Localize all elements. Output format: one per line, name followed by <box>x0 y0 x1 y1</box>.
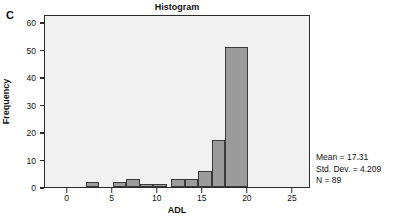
y-tick-label: 40 <box>27 73 36 83</box>
plot-area <box>44 15 310 188</box>
histogram-bar <box>198 171 212 187</box>
y-tick-label: 50 <box>27 46 36 56</box>
x-axis-label: ADL <box>44 205 310 215</box>
y-axis: 0102030405060 <box>0 15 44 188</box>
histogram-bar <box>86 182 100 187</box>
histogram-bar <box>212 140 226 187</box>
histogram-bar <box>140 184 154 187</box>
y-tick-label: 30 <box>27 101 36 111</box>
x-tick-label: 20 <box>242 193 251 203</box>
histogram-figure: C Histogram Frequency 0102030405060 0510… <box>0 0 398 224</box>
histogram-bar <box>113 182 127 187</box>
histogram-bar <box>171 179 185 187</box>
y-tick-label: 20 <box>27 128 36 138</box>
histogram-bar <box>225 47 248 187</box>
stat-mean: Mean = 17.31 <box>316 152 381 164</box>
statistics-annotation: Mean = 17.31 Std. Dev. = 4.209 N = 89 <box>316 152 381 187</box>
x-tick-label: 0 <box>64 193 69 203</box>
x-tick-label: 15 <box>197 193 206 203</box>
stat-std-dev: Std. Dev. = 4.209 <box>316 164 381 176</box>
histogram-bar <box>185 179 199 187</box>
histogram-bar <box>126 179 140 187</box>
x-tick-label: 5 <box>109 193 114 203</box>
chart-title: Histogram <box>44 2 310 12</box>
x-tick-label: 25 <box>287 193 296 203</box>
bars-layer <box>45 16 309 187</box>
y-tick-label: 10 <box>27 156 36 166</box>
y-tick-label: 0 <box>31 183 36 193</box>
y-tick-label: 60 <box>27 18 36 28</box>
x-tick-label: 10 <box>152 193 161 203</box>
stat-n: N = 89 <box>316 175 381 187</box>
histogram-bar <box>153 184 167 187</box>
